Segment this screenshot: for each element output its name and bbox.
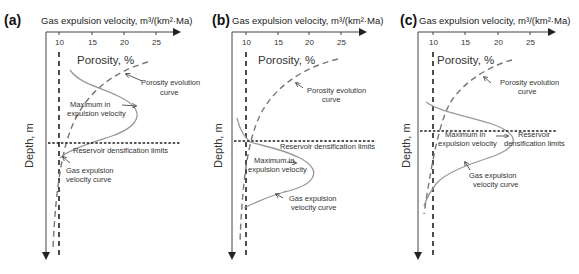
annotation-gas-curve: Gas expulsion <box>66 166 114 175</box>
annotation-gas-curve: velocity curve <box>66 175 111 184</box>
x-axis-title: Gas expulsion velocity, m³/(km²·Ma) <box>41 15 192 26</box>
y-axis-label: Depth, m <box>23 123 35 168</box>
porosity-evolution-curve <box>53 62 148 248</box>
panel-letter: (c) <box>400 12 417 28</box>
annotation-limit: Reservoir densification limits <box>73 146 168 155</box>
x-axis-title: Gas expulsion velocity, m³/(km²·Ma) <box>232 15 383 26</box>
annotation-limit: densification limits <box>504 139 565 148</box>
x-tick: 15 <box>461 38 470 47</box>
annotation-maximum: expulsion velocity <box>438 139 497 148</box>
figure: (a) Gas expulsion velocity, m³/(km²·Ma) … <box>0 0 579 274</box>
annotation-gas-curve: velocity curve <box>473 180 518 189</box>
x-tick: 15 <box>274 38 283 47</box>
panel-a: (a) Gas expulsion velocity, m³/(km²·Ma) … <box>4 12 200 258</box>
x-tick: 15 <box>88 38 97 47</box>
annotation-maximum: expulsion velocity <box>67 109 126 118</box>
panel-b: (b) Gas expulsion velocity, m³/(km²·Ma) … <box>212 12 383 258</box>
annotation-maximum: Maximum in <box>445 130 485 139</box>
annotation-porosity-curve: curve <box>518 87 536 96</box>
panel-letter: (b) <box>212 12 230 28</box>
annotation-porosity-curve: Porosity evolution <box>141 78 200 87</box>
annotation-limit: Reservoir <box>518 130 551 139</box>
annotation-gas-curve: velocity curve <box>291 203 336 212</box>
annotation-porosity-curve: Porosity evolution <box>307 86 366 95</box>
y-axis-label: Depth, m <box>400 123 412 168</box>
x-tick: 10 <box>55 38 64 47</box>
x-tick: 25 <box>526 38 535 47</box>
annotation-porosity-curve: Porosity evolution <box>500 78 559 87</box>
x-tick: 25 <box>337 38 346 47</box>
diagram-canvas: (a) Gas expulsion velocity, m³/(km²·Ma) … <box>0 0 579 274</box>
porosity-axis-label: Porosity, % <box>258 54 315 66</box>
x-tick: 20 <box>305 38 314 47</box>
y-axis-label: Depth, m <box>212 123 224 168</box>
x-tick: 20 <box>120 38 129 47</box>
annotation-maximum: expulsion velocity <box>248 165 307 174</box>
x-tick: 10 <box>429 38 438 47</box>
panel-letter: (a) <box>4 12 21 28</box>
x-tick: 25 <box>152 38 161 47</box>
annotation-gas-curve: Gas expulsion <box>469 171 517 180</box>
annotation-porosity-curve: curve <box>322 95 340 104</box>
annotation-porosity-curve: curve <box>160 88 178 97</box>
annotation-limit: Reservoir densification limits <box>280 142 375 151</box>
porosity-axis-label: Porosity, % <box>437 54 494 66</box>
porosity-axis-label: Porosity, % <box>77 54 134 66</box>
panel-c: (c) Gas expulsion velocity, m³/(km²·Ma) … <box>400 12 570 258</box>
x-tick: 20 <box>494 38 503 47</box>
annotation-gas-curve: Gas expulsion <box>289 194 337 203</box>
x-tick: 10 <box>242 38 251 47</box>
gas-expulsion-curve <box>424 102 513 206</box>
annotation-maximum: Maximum in <box>70 100 110 109</box>
x-axis-title: Gas expulsion velocity, m³/(km²·Ma) <box>419 15 570 26</box>
annotation-maximum: Maximum in <box>254 156 294 165</box>
